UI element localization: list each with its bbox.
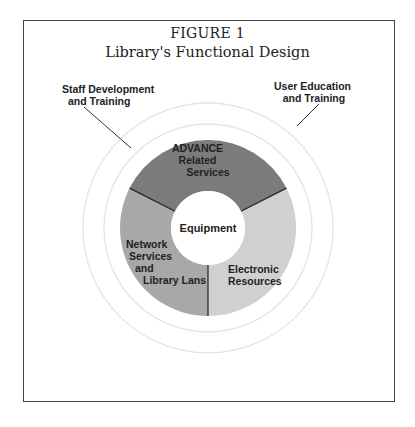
functional-design-diagram: Equipment ADVANCE Related Services Elect… <box>0 0 415 427</box>
user-education-leader <box>297 104 319 126</box>
staff-development-label: Staff Development and Training <box>62 83 157 107</box>
center-label: Equipment <box>180 222 237 234</box>
staff-development-leader <box>84 107 131 148</box>
electronic-label: Electronic Resources <box>228 263 282 287</box>
user-education-label: User Education and Training <box>274 80 354 104</box>
